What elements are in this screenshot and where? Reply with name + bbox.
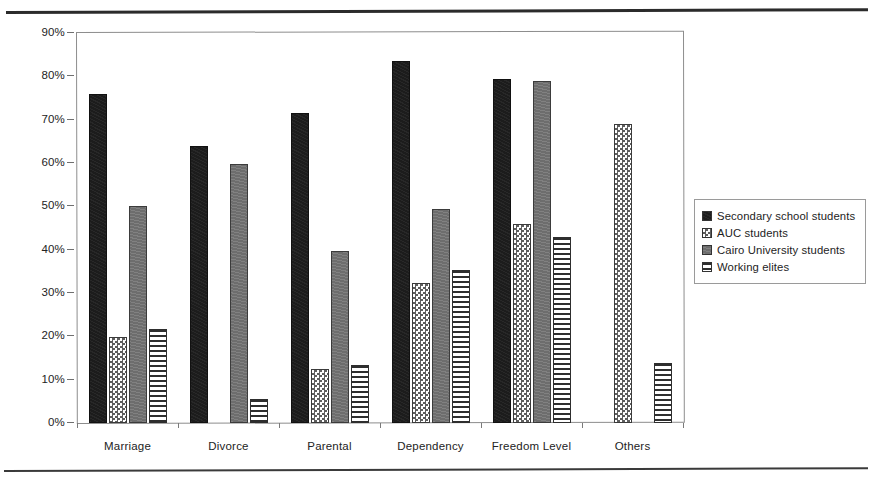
x-axis-label: Freedom Level xyxy=(481,432,582,478)
y-axis-tick-label: 90% xyxy=(41,26,76,38)
x-axis-label: Parental xyxy=(279,432,380,478)
y-axis-tick-label: 10% xyxy=(41,373,76,385)
x-axis-label: Divorce xyxy=(178,432,279,478)
y-axis-tick: 0% xyxy=(0,416,76,430)
bar-group xyxy=(178,33,279,423)
bar-chart: 90%80%70%60%50%40%30%20%10%0% MarriageDi… xyxy=(0,18,875,468)
x-axis-tick xyxy=(380,423,381,428)
bar[interactable] xyxy=(109,337,127,423)
y-axis-tick: 10% xyxy=(0,373,76,387)
bar[interactable] xyxy=(432,209,450,423)
y-axis-tick-label: 30% xyxy=(41,286,76,298)
x-axis-tick xyxy=(178,423,179,428)
legend-item[interactable]: Secondary school students xyxy=(702,208,853,224)
bar-groups xyxy=(77,33,683,423)
legend-item-label: Secondary school students xyxy=(717,210,855,222)
plot-area xyxy=(77,33,683,423)
x-axis-label: Marriage xyxy=(77,432,178,478)
x-axis-tick xyxy=(683,423,684,428)
legend-swatch-icon xyxy=(702,211,712,221)
x-axis-labels: MarriageDivorceParentalDependencyFreedom… xyxy=(77,432,683,478)
bar[interactable] xyxy=(250,399,268,423)
legend-swatch-icon xyxy=(702,262,712,272)
y-axis-tick: 80% xyxy=(0,69,76,83)
legend-item[interactable]: Working elites xyxy=(702,259,853,275)
bar[interactable] xyxy=(331,251,349,423)
bar[interactable] xyxy=(614,124,632,423)
bar[interactable] xyxy=(392,61,410,423)
y-axis-tick: 70% xyxy=(0,113,76,127)
bar[interactable] xyxy=(291,113,309,423)
bar[interactable] xyxy=(654,363,672,423)
x-axis-label: Others xyxy=(582,432,683,478)
y-axis-tick-label: 40% xyxy=(41,243,76,255)
x-axis-label: Dependency xyxy=(380,432,481,478)
figure-page: 90%80%70%60%50%40%30%20%10%0% MarriageDi… xyxy=(0,0,875,487)
x-axis-tick xyxy=(481,423,482,428)
legend-swatch-icon xyxy=(702,245,712,255)
y-axis-tick: 60% xyxy=(0,156,76,170)
page-rule-top xyxy=(6,8,868,14)
y-axis-tick: 90% xyxy=(0,26,76,40)
y-axis-tick-label: 60% xyxy=(41,156,76,168)
bar-group xyxy=(77,33,178,423)
x-axis-ticks xyxy=(77,423,683,429)
bar[interactable] xyxy=(533,81,551,423)
y-axis-tick-label: 70% xyxy=(41,113,76,125)
bar[interactable] xyxy=(230,164,248,423)
y-axis-tick-label: 80% xyxy=(41,69,76,81)
bar[interactable] xyxy=(149,329,167,423)
legend-item[interactable]: AUC students xyxy=(702,225,853,241)
legend-item-label: AUC students xyxy=(717,227,788,239)
bar[interactable] xyxy=(493,79,511,423)
x-axis-tick xyxy=(77,423,78,428)
y-axis-tick: 20% xyxy=(0,329,76,343)
legend-item-label: Cairo University students xyxy=(717,244,845,256)
legend-swatch-icon xyxy=(702,228,712,238)
x-axis-tick xyxy=(582,423,583,428)
y-axis-tick-label: 20% xyxy=(41,329,76,341)
bar[interactable] xyxy=(452,270,470,423)
bar[interactable] xyxy=(513,224,531,423)
bar[interactable] xyxy=(190,146,208,423)
legend-item-label: Working elites xyxy=(717,261,789,273)
bar-group xyxy=(279,33,380,423)
bar[interactable] xyxy=(412,283,430,423)
bar[interactable] xyxy=(351,365,369,423)
legend-item[interactable]: Cairo University students xyxy=(702,242,853,258)
bar-group xyxy=(481,33,582,423)
y-axis-tick-label: 0% xyxy=(48,416,76,428)
bar[interactable] xyxy=(553,237,571,423)
y-axis: 90%80%70%60%50%40%30%20%10%0% xyxy=(0,33,76,425)
x-axis-tick xyxy=(279,423,280,428)
y-axis-tick: 30% xyxy=(0,286,76,300)
bar-group xyxy=(380,33,481,423)
bar[interactable] xyxy=(129,206,147,423)
y-axis-tick: 50% xyxy=(0,199,76,213)
bar[interactable] xyxy=(89,94,107,423)
y-axis-tick: 40% xyxy=(0,243,76,257)
bar[interactable] xyxy=(311,369,329,423)
y-axis-tick-label: 50% xyxy=(41,199,76,211)
bar-group xyxy=(582,33,683,423)
chart-legend: Secondary school studentsAUC studentsCai… xyxy=(694,199,866,284)
